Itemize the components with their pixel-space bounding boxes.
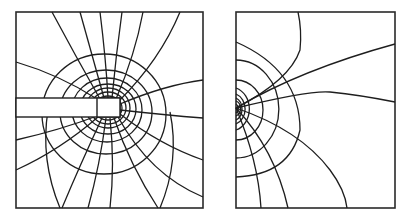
right-panel-frame <box>236 12 395 208</box>
field-map-figure <box>0 0 407 222</box>
right-panel <box>236 12 395 208</box>
conductor-tip <box>97 98 120 117</box>
left-panel <box>16 12 203 208</box>
right-field-lines <box>236 12 395 208</box>
